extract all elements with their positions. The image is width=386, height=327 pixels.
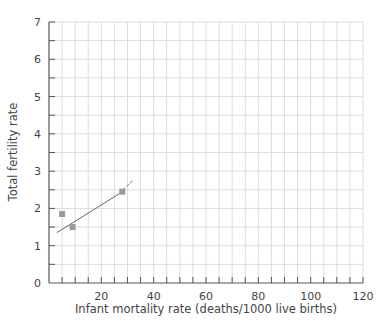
data-point-marker bbox=[59, 211, 65, 217]
y-axis-label: Total fertility rate bbox=[6, 103, 20, 203]
y-tick-label: 6 bbox=[34, 53, 41, 66]
data-points bbox=[59, 189, 125, 230]
scatter-chart: 2040608010012001234567 Infant mortality … bbox=[0, 0, 386, 327]
x-tick-label: 120 bbox=[353, 290, 374, 303]
data-point-marker bbox=[119, 189, 125, 195]
data-point-marker bbox=[70, 224, 76, 230]
y-tick-label: 7 bbox=[34, 16, 41, 29]
y-tick-label: 0 bbox=[34, 277, 41, 290]
x-axis-label: Infant mortality rate (deaths/1000 live … bbox=[75, 302, 337, 316]
y-tick-label: 3 bbox=[34, 165, 41, 178]
y-tick-label: 2 bbox=[34, 202, 41, 215]
y-tick-label: 1 bbox=[34, 240, 41, 253]
grid-lines bbox=[49, 22, 363, 283]
y-tick-label: 5 bbox=[34, 91, 41, 104]
y-tick-label: 4 bbox=[34, 128, 41, 141]
trendline bbox=[57, 180, 133, 232]
